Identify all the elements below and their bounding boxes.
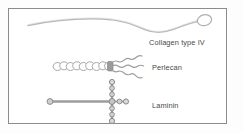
laminin-domain-bead bbox=[110, 86, 115, 91]
collagen-fibril-path bbox=[28, 19, 199, 32]
collagen-type-iv-glyph bbox=[28, 13, 213, 32]
diagram-illustration bbox=[0, 0, 243, 133]
label-perlecan: Perlecan bbox=[152, 64, 182, 71]
laminin-terminal-bead-top bbox=[109, 79, 114, 84]
laminin-domain-bead bbox=[110, 92, 115, 97]
laminin-domain-bead bbox=[110, 112, 115, 117]
laminin-domain-bead bbox=[110, 106, 115, 111]
label-laminin: Laminin bbox=[152, 102, 179, 109]
collagen-globular-head bbox=[196, 13, 212, 27]
figure-root: Collagen type IV Perlecan Laminin bbox=[0, 0, 243, 133]
perlecan-bead-chain bbox=[53, 62, 112, 71]
perlecan-gag-branch-upper bbox=[112, 56, 142, 63]
laminin-terminal-bead-bottom bbox=[109, 118, 114, 123]
laminin-terminal-bead-left bbox=[47, 99, 53, 105]
laminin-glyph bbox=[47, 79, 129, 123]
laminin-center-junction bbox=[109, 99, 115, 105]
laminin-terminal-bead-right bbox=[123, 99, 128, 104]
perlecan-glyph bbox=[53, 56, 143, 78]
label-collagen-type-iv: Collagen type IV bbox=[149, 39, 205, 46]
perlecan-gag-branch-lower bbox=[112, 70, 142, 78]
perlecan-gag-branch-middle bbox=[112, 65, 144, 67]
laminin-domain-bead bbox=[117, 99, 122, 104]
